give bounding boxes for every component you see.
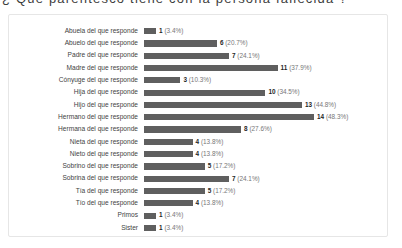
clipped-title-strip: ¿ Qué parentesco tiene con la persona fa… bbox=[0, 0, 402, 13]
bar[interactable] bbox=[144, 213, 156, 219]
bar-row: Primos1 (3.4%) bbox=[9, 209, 389, 221]
bar-value-label: 4 (13.8%) bbox=[196, 151, 224, 157]
bar-track: 7 (24.1%) bbox=[144, 173, 389, 185]
bar-track: 13 (44.8%) bbox=[144, 99, 389, 111]
bar-row: Hermano del que responde14 (48.3%) bbox=[9, 111, 389, 123]
bar-row: Madre del que responde11 (37.9%) bbox=[9, 62, 389, 74]
bar[interactable] bbox=[144, 126, 241, 132]
bar-track: 11 (37.9%) bbox=[144, 62, 389, 74]
bar-track: 8 (27.6%) bbox=[144, 123, 389, 135]
bar-row: Nieta del que responde4 (13.8%) bbox=[9, 136, 389, 148]
bar[interactable] bbox=[144, 53, 229, 59]
bar-value-label: 4 (13.8%) bbox=[196, 200, 224, 206]
bar-track: 5 (17.2%) bbox=[144, 160, 389, 172]
bar-category-label: Madre del que responde bbox=[9, 65, 144, 72]
bar-track: 1 (3.4%) bbox=[144, 209, 389, 221]
bar-value-label: 5 (17.2%) bbox=[208, 188, 236, 194]
bar-row: Abuela del que responde1 (3.4%) bbox=[9, 25, 389, 37]
chart-card: Abuela del que responde1 (3.4%)Abuelo de… bbox=[8, 14, 388, 237]
bar-category-label: Sobrino del que responde bbox=[9, 163, 144, 170]
bar-value-label: 11 (37.9%) bbox=[281, 65, 312, 71]
bar-value-label: 8 (27.6%) bbox=[244, 126, 272, 132]
bar[interactable] bbox=[144, 163, 205, 169]
bar-category-label: Nieta del que responde bbox=[9, 139, 144, 146]
bar-row: Sobrina del que responde7 (24.1%) bbox=[9, 173, 389, 185]
bar-value-label: 10 (34.5%) bbox=[268, 89, 299, 95]
bar[interactable] bbox=[144, 176, 229, 182]
bar-value-label: 4 (13.8%) bbox=[196, 139, 224, 145]
bar-value-label: 1 (3.4%) bbox=[159, 225, 183, 231]
bar[interactable] bbox=[144, 200, 193, 206]
bar-category-label: Sister bbox=[9, 225, 144, 232]
bar-category-label: Abuela del que responde bbox=[9, 28, 144, 35]
bar-row: Hermana del que responde8 (27.6%) bbox=[9, 123, 389, 135]
bar-track: 1 (3.4%) bbox=[144, 25, 389, 37]
bar-track: 4 (13.8%) bbox=[144, 197, 389, 209]
bar-value-label: 6 (20.7%) bbox=[220, 40, 248, 46]
bar[interactable] bbox=[144, 139, 193, 145]
bar-category-label: Padre del que responde bbox=[9, 52, 144, 59]
bar-value-label: 3 (10.3%) bbox=[183, 77, 211, 83]
bar-track: 4 (13.8%) bbox=[144, 148, 389, 160]
bar[interactable] bbox=[144, 77, 180, 83]
bar-row: Nieto del que responde4 (13.8%) bbox=[9, 148, 389, 160]
bar-value-label: 1 (3.4%) bbox=[159, 212, 183, 218]
bar-track: 5 (17.2%) bbox=[144, 185, 389, 197]
bar-category-label: Nieto del que responde bbox=[9, 151, 144, 158]
bar[interactable] bbox=[144, 28, 156, 34]
bar-track: 1 (3.4%) bbox=[144, 222, 389, 234]
bar-row: Tío del que responde4 (13.8%) bbox=[9, 197, 389, 209]
bar-category-label: Tío del que responde bbox=[9, 200, 144, 207]
bar-chart-plot-area: Abuela del que responde1 (3.4%)Abuelo de… bbox=[9, 25, 389, 234]
bar[interactable] bbox=[144, 65, 278, 71]
bar-category-label: Tía del que responde bbox=[9, 188, 144, 195]
page-title: ¿ Qué parentesco tiene con la persona fa… bbox=[2, 0, 348, 6]
bar-category-label: Cónyuge del que responde bbox=[9, 77, 144, 84]
bar-row: Sobrino del que responde5 (17.2%) bbox=[9, 160, 389, 172]
bar-category-label: Hija del que responde bbox=[9, 89, 144, 96]
bar-track: 14 (48.3%) bbox=[144, 111, 389, 123]
bar[interactable] bbox=[144, 151, 193, 157]
bar-value-label: 13 (44.8%) bbox=[305, 102, 336, 108]
bar-category-label: Abuelo del que responde bbox=[9, 40, 144, 47]
bar[interactable] bbox=[144, 188, 205, 194]
bar-row: Sister1 (3.4%) bbox=[9, 222, 389, 234]
bar-row: Padre del que responde7 (24.1%) bbox=[9, 50, 389, 62]
bar-value-label: 1 (3.4%) bbox=[159, 28, 183, 34]
bar-row: Tía del que responde5 (17.2%) bbox=[9, 185, 389, 197]
bar-value-label: 7 (24.1%) bbox=[232, 53, 260, 59]
bar-category-label: Primos bbox=[9, 212, 144, 219]
bar-value-label: 7 (24.1%) bbox=[232, 176, 260, 182]
bar[interactable] bbox=[144, 40, 217, 46]
bar[interactable] bbox=[144, 90, 265, 96]
bar-track: 4 (13.8%) bbox=[144, 136, 389, 148]
bar-value-label: 5 (17.2%) bbox=[208, 163, 236, 169]
bar-track: 10 (34.5%) bbox=[144, 86, 389, 98]
bar[interactable] bbox=[144, 225, 156, 231]
bar-track: 3 (10.3%) bbox=[144, 74, 389, 86]
bar[interactable] bbox=[144, 114, 314, 120]
bar-track: 7 (24.1%) bbox=[144, 50, 389, 62]
bar-row: Hija del que responde10 (34.5%) bbox=[9, 86, 389, 98]
bar[interactable] bbox=[144, 102, 302, 108]
bar-track: 6 (20.7%) bbox=[144, 37, 389, 49]
bar-row: Cónyuge del que responde3 (10.3%) bbox=[9, 74, 389, 86]
bar-row: Abuelo del que responde6 (20.7%) bbox=[9, 37, 389, 49]
bar-category-label: Hermano del que responde bbox=[9, 114, 144, 121]
bar-row: Hijo del que responde13 (44.8%) bbox=[9, 99, 389, 111]
bar-category-label: Hijo del que responde bbox=[9, 102, 144, 109]
bar-category-label: Sobrina del que responde bbox=[9, 175, 144, 182]
bar-value-label: 14 (48.3%) bbox=[317, 114, 348, 120]
bar-category-label: Hermana del que responde bbox=[9, 126, 144, 133]
